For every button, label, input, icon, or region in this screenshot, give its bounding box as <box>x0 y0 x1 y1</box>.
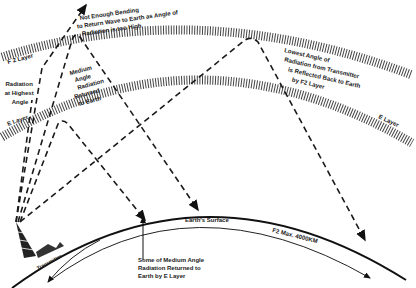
propagation-diagram: Not Enough Bending to Return Wave to Ear… <box>0 0 416 288</box>
transmitter-tower-icon <box>16 222 64 258</box>
e-layer-band <box>2 80 412 143</box>
label-escape: Not Enough Bending to Return Wave to Ear… <box>75 1 181 37</box>
range-arrow <box>48 227 370 282</box>
label-e-return: Some of Medium Angle Radiation Returned … <box>138 257 206 279</box>
label-highest-angle: Radiation at Highest Angle <box>5 81 36 105</box>
label-earth-surface: Earth's Surface <box>185 217 229 223</box>
label-e-layer-right: E Layer <box>378 113 401 128</box>
label-medium-angle: Medium Angle Radiation Returned to Earth <box>67 62 110 108</box>
